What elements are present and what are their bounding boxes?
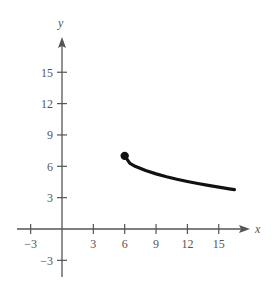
x-tick-label: −3 — [24, 237, 37, 251]
x-tick-label: 15 — [213, 237, 225, 251]
start-point-marker — [121, 152, 129, 160]
x-tick-label: 12 — [181, 237, 193, 251]
x-tick-label: 3 — [90, 237, 96, 251]
x-axis-label: x — [254, 222, 261, 236]
tick-labels: −33691215−33691215 — [24, 66, 224, 268]
chart-canvas: −33691215−33691215 x y — [0, 0, 277, 289]
y-tick-label: 15 — [41, 66, 53, 80]
x-tick-label: 6 — [122, 237, 128, 251]
function-curve — [125, 156, 235, 190]
y-tick-label: 3 — [47, 191, 53, 205]
ticks — [31, 72, 219, 260]
y-tick-label: −3 — [40, 254, 53, 268]
y-tick-label: 9 — [47, 128, 53, 142]
y-axis-label: y — [57, 16, 64, 30]
y-tick-label: 12 — [41, 97, 53, 111]
y-tick-label: 6 — [47, 160, 53, 174]
x-tick-label: 9 — [153, 237, 159, 251]
